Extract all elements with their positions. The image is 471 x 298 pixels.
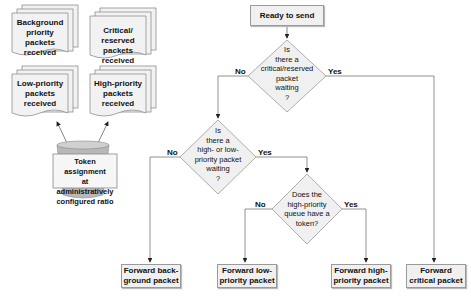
token-assignment-label: Token assignment at administratively con… (53, 157, 117, 207)
arrow-d3-no (245, 209, 272, 262)
d1-no-label: No (235, 67, 246, 76)
text-line: high- or low- (183, 145, 253, 155)
source-background-label: Background priority packets received (12, 18, 68, 58)
text-line: at administratively (53, 177, 117, 197)
source-high-label: High-priority packets received (90, 79, 146, 109)
text-line: Forward low- (219, 266, 274, 276)
text-line: Forward high- (333, 266, 388, 276)
source-low-label: Low-priority packets received (12, 79, 68, 109)
text-line: there a (252, 55, 322, 65)
text-line: ground packet (123, 276, 178, 286)
text-line: received (90, 99, 146, 109)
text-line: Low-priority (12, 79, 68, 89)
text-line: packets (90, 89, 146, 99)
decision-d1-label: Is there a critical/reserved packet wait… (252, 45, 322, 102)
text-line: critical packet (409, 276, 462, 286)
d3-no-label: No (255, 200, 266, 209)
text-line: Is (183, 126, 253, 136)
arrow-bucket-to-high (98, 122, 108, 143)
text-line: ? (183, 174, 253, 184)
arrow-d3-yes (342, 209, 366, 262)
text-line: high-priority (275, 200, 339, 210)
text-line: Forward back- (123, 266, 178, 276)
text-line: ? (252, 93, 322, 103)
text-line: configured ratio (53, 197, 117, 207)
text-line: token? (275, 219, 339, 229)
text-line: received (12, 99, 68, 109)
decision-d3-label: Does the high-priority queue have a toke… (275, 190, 339, 228)
d3-yes-label: Yes (344, 200, 358, 209)
text-line: priority packet (183, 155, 253, 165)
arrow-bucket-to-low (57, 122, 67, 143)
arrow-d1-yes (326, 76, 434, 262)
decision-d2-label: Is there a high- or low- priority packet… (183, 126, 253, 183)
text-line: received (12, 48, 68, 58)
forward-critical-box: Forward critical packet (406, 264, 466, 288)
forward-low-priority-box: Forward low- priority packet (217, 264, 277, 288)
forward-background-box: Forward back- ground packet (121, 264, 181, 288)
text-line: High-priority (90, 79, 146, 89)
text-line: queue have a (275, 209, 339, 219)
text-line: Background (12, 18, 68, 28)
text-line: Is (252, 45, 322, 55)
text-line: waiting (183, 164, 253, 174)
ready-to-send-box: Ready to send (250, 5, 324, 26)
text-line: packets received (90, 46, 146, 66)
source-critical-label: Critical/ reserved packets received (90, 26, 146, 66)
d2-yes-label: Yes (258, 148, 272, 157)
text-line: critical/reserved (252, 64, 322, 74)
text-line: Forward (409, 266, 462, 276)
arrow-d2-yes (256, 157, 307, 172)
d1-yes-label: Yes (328, 67, 342, 76)
text-line: priority packets (12, 28, 68, 48)
arrow-d1-no (218, 76, 248, 118)
text-line: packets (12, 89, 68, 99)
text-line: Critical/ reserved (90, 26, 146, 46)
ready-to-send-label: Ready to send (260, 11, 315, 21)
text-line: Does the (275, 190, 339, 200)
text-line: waiting (252, 83, 322, 93)
text-line: there a (183, 136, 253, 146)
text-line: packet (252, 74, 322, 84)
arrow-d2-no (150, 157, 180, 262)
forward-high-priority-box: Forward high- priority packet (331, 264, 391, 288)
text-line: priority packet (219, 276, 274, 286)
text-line: priority packet (333, 276, 388, 286)
d2-no-label: No (167, 148, 178, 157)
text-line: Token assignment (53, 157, 117, 177)
